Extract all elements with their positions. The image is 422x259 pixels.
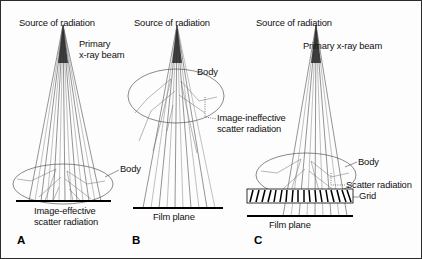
panel-c-grid [247,189,353,203]
panel-a-scatter-rays [17,169,105,201]
panel-b-source-label: Source of radiation [134,18,210,29]
figure-container: Source of radiation Primary x-ray beam B… [0,0,422,259]
panel-b-film-label: Film plane [153,212,195,223]
panel-c-film-label: Film plane [269,220,311,231]
panel-b-letter: B [132,234,140,246]
panel-a-body-leader [105,170,119,177]
panel-a-body-outline [13,164,113,204]
panel-a-letter: A [17,234,25,246]
panel-c-letter: C [254,234,262,246]
panel-b-scatter-label-line2: scatter radiation [217,124,281,135]
panel-a-scatter-label-line2: scatter radiation [34,217,98,228]
panel-b-primary-beam [143,25,215,208]
panel-b-body-label: Body [197,67,218,78]
panel-c-body-label: Body [358,157,379,168]
panel-a-beam-label-line1: Primary [79,39,110,50]
panel-b-scatter-leader [205,97,217,119]
panel-c-scatter-rays [261,159,349,191]
panel-b-artwork [128,25,224,208]
panel-c-source-label: Source of radiation [256,18,332,29]
panel-b-scatter-label-line1: Image-ineffective [217,113,286,124]
panel-a-body-label: Body [120,164,141,175]
panel-c-beam-label: Primary x-ray beam [303,41,382,52]
panel-c-grid-label: Grid [359,191,376,202]
panel-a-beam-label-line2: x-ray beam [79,50,124,61]
panel-c-body-leader [345,162,357,167]
panel-a-scatter-label-line1: Image-effective [34,206,96,217]
panel-a-source-label: Source of radiation [19,18,95,29]
panel-c-scatter-leader [331,173,345,185]
panel-c-primary-beam [283,25,347,216]
panel-c-scatter-label: Scatter radiation [346,180,412,191]
